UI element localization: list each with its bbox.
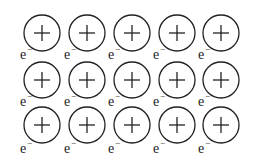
negative-charge-superscript: − [27,91,32,101]
negative-charge-superscript: − [27,138,32,148]
electron-label: e [153,94,159,109]
negative-charge-superscript: − [160,138,165,148]
negative-charge-superscript: − [115,44,120,54]
negative-charge-superscript: − [115,91,120,101]
electron-label: e [20,94,26,109]
electron-label: e [108,47,114,62]
negative-charge-superscript: − [115,138,120,148]
electron-label: e [64,141,70,156]
electron-label: e [64,94,70,109]
electron-label: e [198,94,204,109]
electron-label: e [198,47,204,62]
negative-charge-superscript: − [71,138,76,148]
negative-charge-superscript: − [27,44,32,54]
negative-charge-superscript: − [205,138,210,148]
negative-charge-superscript: − [205,44,210,54]
electron-label: e [108,94,114,109]
electron-label: e [198,141,204,156]
negative-charge-superscript: − [160,44,165,54]
electron-label: e [20,141,26,156]
negative-charge-superscript: − [160,91,165,101]
electron-label: e [64,47,70,62]
electron-label: e [153,141,159,156]
negative-charge-superscript: − [71,91,76,101]
electron-label: e [153,47,159,62]
electron-label: e [108,141,114,156]
metallic-bonding-diagram: e−e−e−e−e−e−e−e−e−e−e−e−e−e−e− [0,0,253,165]
negative-charge-superscript: − [71,44,76,54]
electron-label: e [20,47,26,62]
negative-charge-superscript: − [205,91,210,101]
